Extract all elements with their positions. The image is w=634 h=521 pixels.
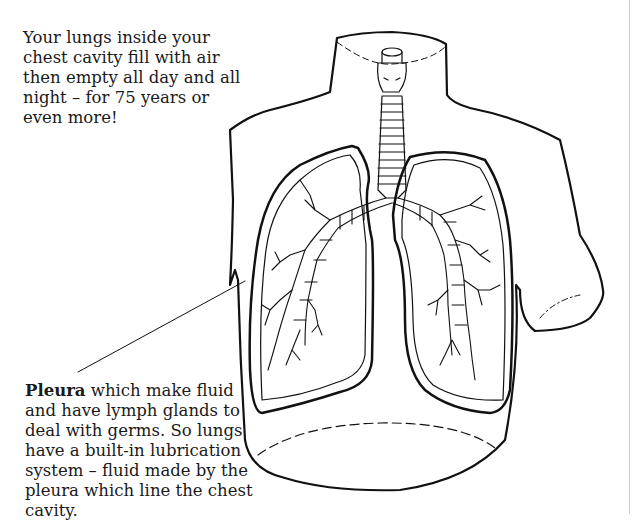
- neck-top-ellipse: [337, 42, 446, 64]
- pleura-leader-line[interactable]: [78, 281, 245, 372]
- trachea: [378, 48, 407, 198]
- right-lung-pleura: [402, 160, 505, 401]
- shoulder-contour: [540, 295, 580, 318]
- left-lung-outer: [250, 146, 373, 413]
- diaphragm: [258, 423, 495, 455]
- right-bronchial-tree: [393, 196, 500, 380]
- torso-outline: [230, 32, 603, 490]
